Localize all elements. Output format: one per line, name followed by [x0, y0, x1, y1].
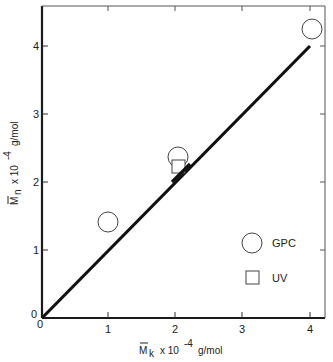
reference-line	[42, 46, 310, 318]
y-tick-label-2: 2	[33, 176, 39, 188]
x-tick-label-4: 4	[307, 323, 313, 335]
svg-text:x 10: x 10	[160, 345, 179, 356]
legend-gpc-marker	[242, 233, 262, 253]
svg-text:x 10: x 10	[9, 165, 20, 184]
x-axis-label: M k x 10 -4 g/mol	[139, 338, 222, 359]
y-tick-label-3: 3	[33, 108, 39, 120]
origin-x-label: 0	[37, 318, 43, 330]
y-ticks-right	[320, 46, 325, 250]
y-axis-label: M n x 10 -4 g/mol	[2, 122, 23, 205]
legend-uv-marker	[246, 271, 259, 284]
svg-text:n: n	[12, 189, 23, 195]
svg-text:M: M	[9, 197, 20, 205]
svg-text:g/mol: g/mol	[198, 345, 222, 356]
x-tick-label-3: 3	[239, 323, 245, 335]
gpc-point	[98, 212, 118, 232]
gpc-series	[98, 19, 322, 232]
legend: GPC UV	[242, 233, 296, 284]
svg-text:k: k	[149, 348, 155, 359]
svg-text:-4: -4	[184, 338, 193, 349]
y-tick-label-1: 1	[33, 244, 39, 256]
x-tick-label-1: 1	[105, 323, 111, 335]
chart-figure: 0 0 1 2 3 4 1 2 3 4 M k x 10 -4 g/mol M …	[0, 0, 333, 362]
svg-text:g/mol: g/mol	[9, 122, 20, 146]
legend-uv-label: UV	[272, 272, 288, 284]
svg-text:M: M	[139, 345, 147, 356]
y-tick-label-4: 4	[33, 40, 39, 52]
legend-gpc-label: GPC	[272, 237, 296, 249]
x-tick-label-2: 2	[172, 323, 178, 335]
svg-text:-4: -4	[2, 151, 13, 160]
x-ticks-top	[108, 6, 310, 11]
gpc-point	[302, 19, 322, 39]
